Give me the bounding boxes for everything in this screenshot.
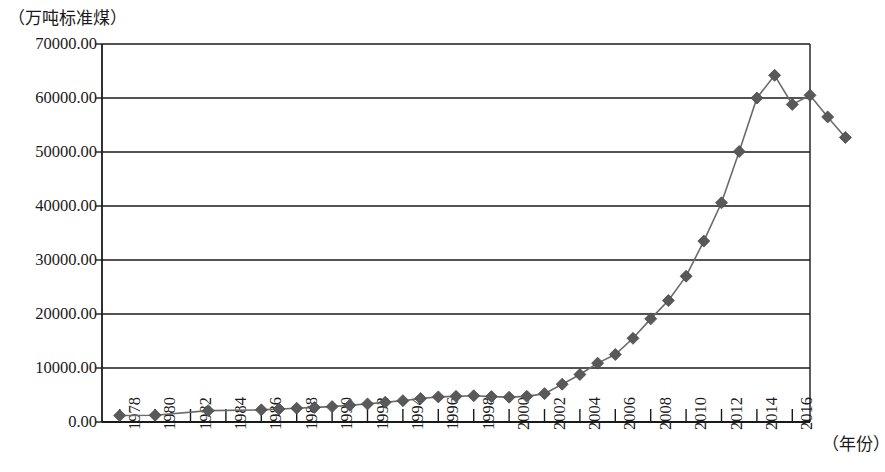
data-point-marker [432, 391, 444, 403]
data-point-marker [680, 270, 692, 282]
data-point-marker [539, 388, 551, 400]
plot-frame [102, 44, 810, 422]
data-point-marker [379, 396, 391, 408]
data-point-marker [291, 402, 303, 414]
data-point-marker [326, 401, 338, 413]
data-point-marker [503, 391, 515, 403]
data-point-marker [521, 390, 533, 402]
data-point-marker [716, 197, 728, 209]
data-point-marker [397, 395, 409, 407]
series-line-energy-consumption [120, 75, 846, 415]
data-point-marker [485, 391, 497, 403]
data-point-marker [786, 98, 798, 110]
data-point-marker [308, 401, 320, 413]
data-point-marker [733, 145, 745, 157]
data-point-marker [149, 409, 161, 421]
plot-area [0, 0, 885, 472]
data-point-marker [344, 399, 356, 411]
data-point-marker [273, 403, 285, 415]
data-point-marker [574, 368, 586, 380]
data-point-marker [556, 378, 568, 390]
gridlines [102, 98, 810, 368]
data-point-marker [114, 410, 126, 422]
energy-consumption-line-chart: （万吨标准煤） （年份） 0.0010000.0020000.0030000.0… [0, 0, 885, 472]
data-point-marker [450, 390, 462, 402]
data-point-marker [415, 393, 427, 405]
data-point-marker [468, 390, 480, 402]
data-point-marker [698, 235, 710, 247]
data-point-marker [255, 404, 267, 416]
data-point-marker [362, 398, 374, 410]
data-point-marker [202, 405, 214, 417]
